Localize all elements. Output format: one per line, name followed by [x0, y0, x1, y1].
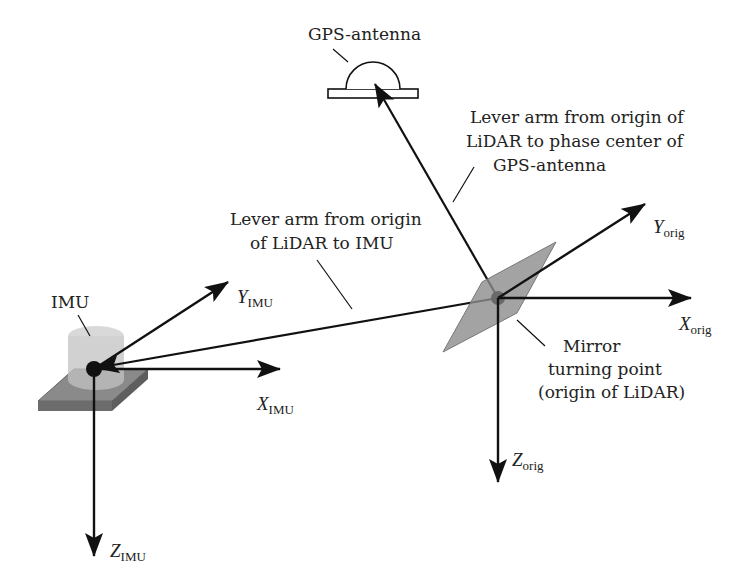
svg-text:Mirror: Mirror	[563, 336, 621, 356]
gps-antenna-label: GPS-antenna	[308, 24, 421, 44]
x-imu-axis-label: XIMU	[256, 393, 294, 417]
lever-arm-imu-label: Lever arm from origin of LiDAR to IMU	[230, 209, 422, 253]
svg-text:Lever arm from origin: Lever arm from origin	[230, 209, 422, 229]
lever-arm-gps-label: Lever arm from origin of LiDAR to phase …	[466, 107, 685, 175]
lidar-geometry-diagram: GPS-antenna Lever arm from origin of LiD…	[0, 0, 756, 585]
z-orig-axis-label: Zorig	[512, 449, 544, 473]
svg-text:of LiDAR to IMU: of LiDAR to IMU	[250, 233, 394, 253]
lever-arm-gps-leader	[453, 167, 474, 202]
gps-antenna-leader	[333, 49, 348, 62]
imu-label: IMU	[51, 292, 89, 312]
y-orig-axis-label: Yorig	[653, 216, 685, 240]
gps-antenna-icon	[328, 62, 418, 98]
lever-arm-imu-leader	[317, 260, 352, 309]
y-imu-axis-label: YIMU	[237, 286, 273, 310]
z-imu-axis-label: ZIMU	[110, 540, 146, 564]
lever-arm-imu-arrow	[96, 298, 498, 368]
y-orig-axis-arrow	[498, 204, 645, 298]
svg-text:LiDAR to phase center of: LiDAR to phase center of	[466, 131, 685, 151]
mirror-label: Mirror turning point (origin of LiDAR)	[538, 336, 685, 402]
svg-text:GPS-antenna: GPS-antenna	[493, 155, 606, 175]
mirror-leader	[517, 320, 545, 346]
x-orig-axis-label: Xorig	[678, 313, 712, 337]
svg-text:(origin of LiDAR): (origin of LiDAR)	[538, 382, 685, 402]
svg-text:Lever arm from origin of: Lever arm from origin of	[470, 107, 685, 127]
svg-text:turning point: turning point	[548, 359, 662, 379]
